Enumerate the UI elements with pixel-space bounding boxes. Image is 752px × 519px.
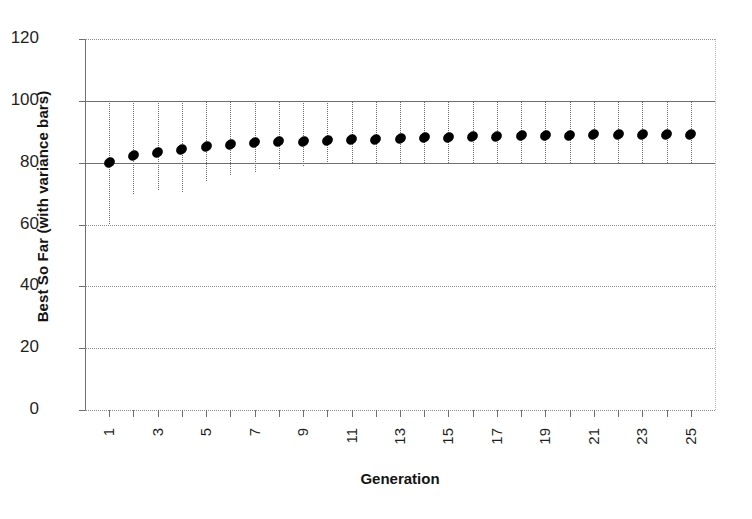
- y-tick-mark-80: [79, 163, 85, 164]
- data-point: [514, 128, 529, 143]
- y-tick-label-0: 0: [0, 399, 39, 419]
- x-tick-mark-14: [424, 410, 425, 417]
- data-point: [441, 130, 456, 145]
- data-point: [538, 128, 553, 143]
- x-tick-mark-3: [158, 410, 159, 417]
- y-tick-label-120: 120: [0, 28, 39, 48]
- x-tick-mark-5: [206, 410, 207, 417]
- data-point: [635, 127, 650, 142]
- data-point: [344, 132, 359, 147]
- data-point: [659, 127, 674, 142]
- x-tick-mark-17: [497, 410, 498, 417]
- x-tick-label-17: 17: [488, 428, 506, 445]
- data-point: [102, 155, 117, 170]
- y-tick-label-20: 20: [0, 337, 39, 357]
- y-tick-mark-40: [79, 286, 85, 287]
- x-tick-label-13: 13: [391, 428, 409, 445]
- data-point: [611, 127, 626, 142]
- x-tick-label-25: 25: [682, 428, 700, 445]
- data-point: [368, 132, 383, 147]
- x-tick-mark-22: [618, 410, 619, 417]
- x-tick-mark-21: [594, 410, 595, 417]
- error-bar: [327, 101, 328, 164]
- data-point: [199, 139, 214, 154]
- x-tick-label-19: 19: [536, 428, 554, 445]
- x-tick-mark-16: [473, 410, 474, 417]
- plot-area: 020406080100120 135791113151719212325: [85, 39, 715, 410]
- x-tick-mark-23: [642, 410, 643, 417]
- x-tick-label-5: 5: [197, 428, 215, 436]
- x-tick-mark-2: [133, 410, 134, 417]
- x-tick-mark-1: [109, 410, 110, 417]
- data-point: [465, 129, 480, 144]
- x-tick-mark-24: [667, 410, 668, 417]
- data-point: [683, 127, 698, 142]
- error-bar: [303, 101, 304, 166]
- x-tick-mark-11: [352, 410, 353, 417]
- data-point: [126, 148, 141, 163]
- chart-figure: Best So Far (with variance bars) Generat…: [0, 0, 752, 519]
- y-tick-mark-120: [79, 39, 85, 40]
- data-point: [223, 137, 238, 152]
- y-tick-mark-60: [79, 225, 85, 226]
- x-tick-mark-25: [691, 410, 692, 417]
- gridline-y-60: [85, 225, 715, 226]
- error-bar: [133, 101, 134, 194]
- y-tick-label-100: 100: [0, 90, 39, 110]
- y-tick-label-40: 40: [0, 275, 39, 295]
- x-tick-label-11: 11: [343, 428, 361, 444]
- x-tick-label-21: 21: [585, 428, 603, 445]
- data-point: [562, 128, 577, 143]
- gridline-y-40: [85, 286, 715, 287]
- y-tick-label-60: 60: [0, 214, 39, 234]
- x-tick-mark-9: [303, 410, 304, 417]
- error-bar: [400, 101, 401, 163]
- x-tick-label-1: 1: [100, 428, 118, 436]
- data-point: [320, 133, 335, 148]
- data-point: [296, 134, 311, 149]
- x-tick-mark-19: [545, 410, 546, 417]
- data-point: [175, 142, 190, 157]
- y-tick-mark-0: [79, 410, 85, 411]
- x-tick-mark-15: [448, 410, 449, 417]
- x-tick-label-9: 9: [294, 428, 312, 436]
- error-bar: [158, 101, 159, 191]
- data-point: [417, 130, 432, 145]
- error-bar: [352, 101, 353, 163]
- x-tick-label-7: 7: [246, 428, 264, 436]
- error-bar: [376, 101, 377, 163]
- x-tick-mark-7: [255, 410, 256, 417]
- x-tick-label-23: 23: [633, 428, 651, 445]
- x-tick-mark-12: [376, 410, 377, 417]
- x-tick-mark-10: [327, 410, 328, 417]
- x-axis-title: Generation: [85, 470, 715, 487]
- x-tick-mark-13: [400, 410, 401, 417]
- x-tick-mark-4: [182, 410, 183, 417]
- y-tick-mark-20: [79, 348, 85, 349]
- y-tick-label-80: 80: [0, 152, 39, 172]
- x-tick-label-15: 15: [439, 428, 457, 445]
- x-tick-mark-6: [230, 410, 231, 417]
- x-tick-mark-18: [521, 410, 522, 417]
- plot-right-edge: [715, 39, 716, 410]
- y-tick-mark-100: [79, 101, 85, 102]
- data-point: [490, 129, 505, 144]
- x-tick-label-3: 3: [149, 428, 167, 436]
- x-tick-mark-8: [279, 410, 280, 417]
- gridline-y-120: [85, 39, 715, 40]
- data-point: [150, 145, 165, 160]
- x-tick-mark-20: [570, 410, 571, 417]
- gridline-y-80: [85, 163, 715, 164]
- gridline-y-20: [85, 348, 715, 349]
- data-point: [393, 131, 408, 146]
